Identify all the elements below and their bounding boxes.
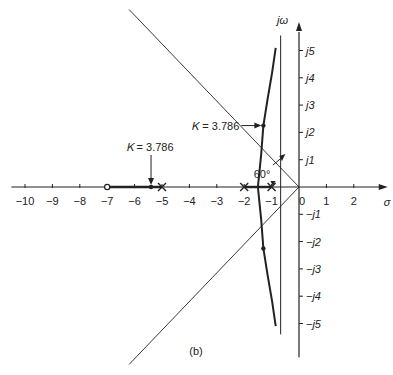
y-tick-label: −j3: [306, 263, 322, 275]
annotation-k-real: 𝐾 = 3.786: [127, 141, 174, 153]
y-tick-label: j2: [304, 126, 315, 138]
annotation-arrowhead-real: [148, 178, 154, 185]
y-tick-label: j4: [304, 72, 315, 84]
y-tick-label: j1: [304, 154, 315, 166]
x-tick-label: −2: [238, 195, 251, 207]
x-tick-label: −8: [74, 195, 87, 207]
x-tick-label: 1: [323, 195, 329, 207]
imag-axis-arrow: [296, 22, 302, 31]
damping-line-lower: [129, 187, 299, 364]
locus-branch-upper: [258, 48, 276, 187]
root-locus-plot: σjω−10−9−8−7−6−5−4−3−2−1012j1j2j3j4j5−j1…: [0, 0, 393, 375]
x-tick-label: −10: [16, 195, 35, 207]
gain-point: [261, 246, 265, 250]
damping-line-upper: [129, 10, 299, 187]
x-tick-label: −1: [265, 195, 278, 207]
x-tick-label: −9: [46, 195, 59, 207]
y-tick-label: −j4: [306, 290, 321, 302]
gain-point: [261, 123, 265, 127]
x-tick-label: −4: [183, 195, 196, 207]
angle-label: 60°: [254, 168, 271, 180]
x-tick-label: −3: [211, 195, 224, 207]
x-tick-label: −6: [128, 195, 141, 207]
x-tick-label: 0: [299, 195, 305, 207]
x-tick-label: 2: [351, 195, 357, 207]
y-axis-label: jω: [275, 14, 288, 26]
gain-point: [149, 185, 153, 189]
figure-caption: (b): [189, 345, 202, 357]
y-tick-label: j5: [304, 45, 315, 57]
y-tick-label: −j5: [306, 318, 322, 330]
x-tick-label: −5: [156, 195, 169, 207]
x-axis-label: σ: [384, 196, 391, 208]
zero-marker: [105, 184, 110, 189]
annotation-arrowhead-complex: [254, 123, 261, 129]
annotation-k-complex: 𝐾 = 3.786: [192, 120, 239, 132]
y-tick-label: j3: [304, 99, 315, 111]
locus-branch-lower: [258, 187, 276, 326]
y-tick-label: −j2: [306, 236, 321, 248]
real-axis-arrow: [379, 184, 388, 190]
x-tick-label: −7: [101, 195, 114, 207]
y-tick-label: −j1: [306, 208, 321, 220]
